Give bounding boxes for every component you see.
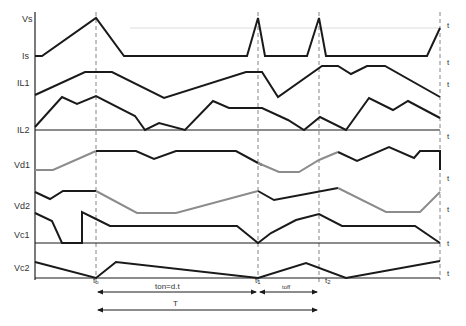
timing-diagram: VsIsIL1IL2Vd1Vd2Vc1Vc2 tttttttt tot1t2 t… [0, 0, 466, 326]
toff-label: toff [282, 284, 291, 290]
t-axis-labels: tttttttt [447, 21, 450, 278]
t-axis-label: t [447, 21, 450, 30]
label-vs: Vs [22, 14, 33, 24]
t-axis-label: t [447, 205, 450, 214]
t-axis-label: t [447, 269, 450, 278]
trace-vd1-grey-b [258, 152, 338, 172]
time-marker-labels: tot1t2 [93, 276, 331, 285]
trace-vd2-black-b [258, 188, 338, 200]
trace-vd1-black-a [96, 151, 258, 163]
trace-vd2-grey-a [96, 191, 258, 213]
trace-vd1-grey-a [35, 151, 96, 170]
label-vd2: Vd2 [14, 201, 30, 211]
signal-labels: VsIsIL1IL2Vd1Vd2Vc1Vc2 [14, 14, 33, 273]
t-axis-label: t [447, 239, 450, 248]
t-axis-label: t [447, 58, 450, 67]
trace-vd1-black-c [338, 147, 440, 170]
time-label-t2: t2 [325, 276, 331, 285]
t-axis-label: t [447, 80, 450, 89]
t-axis-label: t [447, 132, 450, 141]
label-vd1: Vd1 [14, 160, 30, 170]
period-label: T [173, 299, 178, 308]
trace-vd2-grey-b [338, 188, 440, 212]
trace-vd2-black-a [35, 191, 96, 199]
ton-label: ton=d.t [155, 282, 180, 291]
t-axis-label: t [447, 174, 450, 183]
label-il1: IL1 [17, 78, 30, 88]
label-is: Is [22, 51, 30, 61]
label-il2: IL2 [17, 125, 30, 135]
trace-vc2 [35, 261, 440, 278]
label-vc2: Vc2 [14, 263, 30, 273]
waveform-canvas: VsIsIL1IL2Vd1Vd2Vc1Vc2 tttttttt tot1t2 t… [0, 0, 466, 326]
label-vc1: Vc1 [14, 230, 30, 240]
